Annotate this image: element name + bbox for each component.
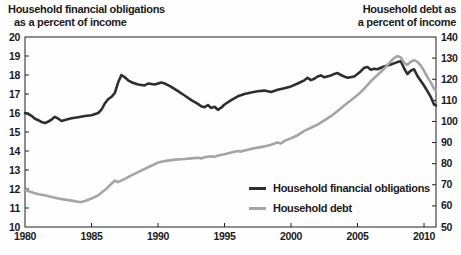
y-right-tick-label: 60 xyxy=(441,199,453,211)
chart-legend: Household financial obligations Househol… xyxy=(249,178,430,218)
y-left-tick-label: 20 xyxy=(9,31,21,43)
x-tick-label: 2000 xyxy=(280,230,303,242)
y-right-tick-label: 100 xyxy=(441,115,458,127)
y-left-tick-label: 13 xyxy=(9,164,21,176)
legend-label-financial-obligations: Household financial obligations xyxy=(273,182,430,194)
y-right-tick-label: 90 xyxy=(441,136,453,148)
y-right-tick-label: 140 xyxy=(441,31,458,43)
debt-line-swatch xyxy=(249,207,266,210)
y-right-tick-label: 110 xyxy=(441,94,457,106)
x-tick-label: 2010 xyxy=(413,230,436,242)
y-right-tick-label: 130 xyxy=(441,52,458,64)
x-tick-label: 2005 xyxy=(346,230,369,242)
y-left-tick-label: 12 xyxy=(9,183,21,195)
y-left-tick-label: 11 xyxy=(10,202,21,214)
legend-item-financial-obligations: Household financial obligations xyxy=(249,178,430,198)
series-line-financial-obligations xyxy=(25,61,436,123)
y-left-tick-label: 16 xyxy=(9,107,21,119)
y-left-tick-label: 17 xyxy=(9,88,21,100)
y-right-tick-label: 80 xyxy=(441,157,453,169)
x-tick-label: 1990 xyxy=(147,230,170,242)
x-tick-label: 1980 xyxy=(14,230,37,242)
obligations-line-swatch xyxy=(249,187,266,190)
legend-item-household-debt: Household debt xyxy=(249,198,430,218)
y-right-tick-label: 50 xyxy=(441,221,453,233)
y-right-tick-label: 120 xyxy=(441,73,458,85)
x-tick-label: 1995 xyxy=(213,230,236,242)
y-left-tick-label: 14 xyxy=(9,145,21,157)
y-left-tick-label: 19 xyxy=(9,50,21,62)
chart-figure: Household financial obligations as a per… xyxy=(0,0,461,255)
y-right-tick-label: 70 xyxy=(441,178,453,190)
y-left-tick-label: 15 xyxy=(9,126,21,138)
legend-label-household-debt: Household debt xyxy=(273,202,352,214)
x-tick-label: 1985 xyxy=(80,230,103,242)
y-left-tick-label: 18 xyxy=(9,69,21,81)
